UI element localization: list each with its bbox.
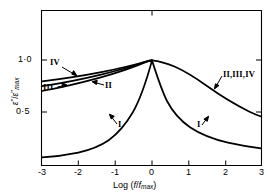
y-axis-label-prime1: ″ xyxy=(9,99,18,102)
curve-label-i-right: I xyxy=(197,120,201,129)
x-tick-label-0: 0 xyxy=(149,168,154,177)
y-axis-label: ε″/ε″max xyxy=(10,61,21,121)
figure: 1·0 0·5 -3 -2 -1 0 1 2 3 Log (f/fmax) ε″… xyxy=(0,0,275,196)
arrowhead-iv xyxy=(72,71,77,76)
x-tick-label-1: 1 xyxy=(186,168,191,177)
arrowhead-i-left xyxy=(109,114,114,119)
curve-label-i-left: I xyxy=(118,120,122,129)
y-axis-ticks-right xyxy=(256,60,262,112)
arrowhead-ii-iii-iv xyxy=(214,84,219,89)
x-tick-label-2: 2 xyxy=(223,168,228,177)
y-axis-label-eps2: ε xyxy=(10,93,20,97)
curve-label-iv: IV xyxy=(50,58,60,67)
x-tick-label--2: -2 xyxy=(74,168,82,177)
y-axis-label-eps1: ε xyxy=(10,102,20,106)
curve-label-ii: II xyxy=(105,81,112,90)
arrowhead-i-right xyxy=(204,116,209,121)
x-axis-label-suffix: ) xyxy=(153,180,156,190)
x-axis-label: Log (f/fmax) xyxy=(113,181,156,191)
curve-label-iii: III xyxy=(43,83,54,92)
x-axis-label-prefix: Log ( xyxy=(113,180,134,190)
x-tick-label--3: -3 xyxy=(38,168,46,177)
x-axis-label-sub: max xyxy=(141,183,153,190)
x-tick-label-3: 3 xyxy=(259,168,264,177)
arrowhead-ii xyxy=(92,80,97,84)
x-axis-ticks xyxy=(42,161,262,166)
x-tick-label--1: -1 xyxy=(111,168,119,177)
y-axis-label-prime2: ″ xyxy=(9,90,18,93)
curve-label-ii-iii-iv: II,III,IV xyxy=(223,70,255,79)
y-axis-label-sub: max xyxy=(13,78,20,90)
y-axis-label-slash: / xyxy=(10,96,20,98)
